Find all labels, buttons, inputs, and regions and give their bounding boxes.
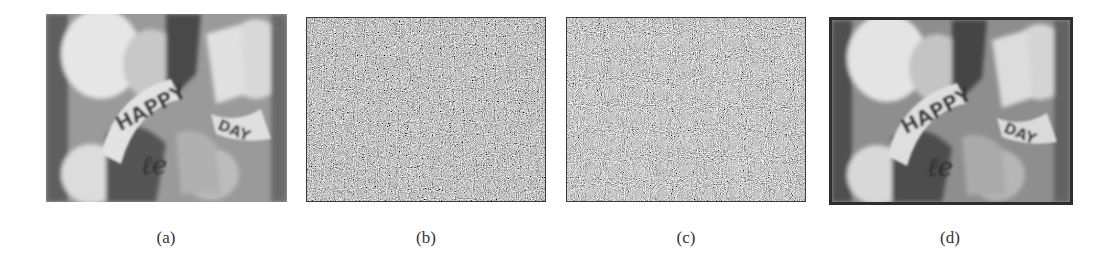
decrypted-image-panel: HAPPY DAY ℓe <box>829 17 1073 205</box>
caption-d: (d) <box>920 228 980 248</box>
encrypted-noise-image-1 <box>307 18 545 201</box>
encrypted-noise-image-2 <box>567 18 805 201</box>
original-image-panel: HAPPY DAY ℓe <box>46 14 287 202</box>
svg-text:ℓe: ℓe <box>927 152 953 182</box>
encrypted-image-panel-2 <box>566 17 806 202</box>
decrypted-image: HAPPY DAY ℓe <box>832 20 1070 202</box>
caption-c: (c) <box>656 228 716 248</box>
encrypted-image-panel-1 <box>306 17 546 202</box>
caption-a: (a) <box>136 228 196 248</box>
svg-text:ℓe: ℓe <box>141 150 167 180</box>
original-image: HAPPY DAY ℓe <box>46 14 287 202</box>
caption-b: (b) <box>396 228 456 248</box>
